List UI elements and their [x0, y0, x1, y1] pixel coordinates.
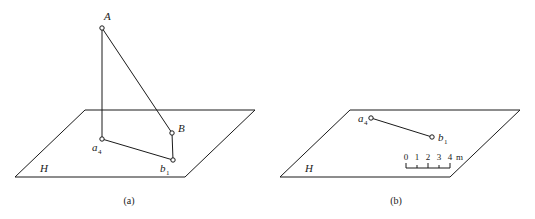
plane-h-a	[15, 110, 255, 177]
label-point-a: A	[103, 10, 111, 22]
point-b1	[171, 158, 175, 162]
label-point-b: B	[178, 122, 185, 134]
point-a	[100, 26, 104, 30]
label-point-a4: a 4	[92, 141, 102, 156]
scale-tick-label-1: 1	[415, 152, 420, 162]
point-a4	[100, 137, 104, 141]
panel-a: A B a 4 b 1 H (a)	[15, 10, 255, 207]
svg-text:1: 1	[166, 169, 170, 177]
scale-unit-label: m	[456, 152, 463, 162]
point-a4-plan	[369, 116, 373, 120]
scale-bar: 0 1 2 3 4 m	[404, 152, 463, 168]
line-a-to-b	[102, 28, 172, 133]
point-b	[170, 131, 174, 135]
scale-tick-label-2: 2	[426, 152, 431, 162]
caption-panel-a: (a)	[123, 195, 134, 207]
scale-tick-label-3: 3	[437, 152, 442, 162]
label-point-b1-plan: b 1	[438, 131, 448, 146]
panel-b: a 4 b 1 H 0 1 2 3 4 m (b)	[280, 110, 520, 207]
figure-container: A B a 4 b 1 H (a) a 4 b 1 H	[0, 0, 535, 219]
svg-text:1: 1	[444, 138, 448, 146]
label-point-b1: b 1	[160, 162, 170, 177]
ground-segment-a4-b1	[102, 139, 173, 160]
caption-panel-b: (b)	[390, 195, 402, 207]
label-plane-h-b: H	[304, 162, 314, 174]
svg-text:4: 4	[364, 119, 368, 127]
ground-segment-a4-b1-plan	[371, 118, 432, 137]
label-plane-h-a: H	[39, 162, 49, 174]
scale-tick-label-4: 4	[448, 152, 453, 162]
scale-tick-label-0: 0	[404, 152, 409, 162]
point-b1-plan	[430, 135, 434, 139]
label-point-a4-plan: a 4	[358, 112, 368, 127]
projection-line-b-b1	[172, 133, 173, 160]
plane-h-b	[280, 110, 520, 177]
svg-text:4: 4	[98, 148, 102, 156]
